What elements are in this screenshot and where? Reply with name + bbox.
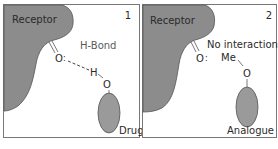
receptor-oxygen-2: O xyxy=(196,53,204,64)
interaction-label-2: No interaction xyxy=(207,39,278,50)
receptor-oxygen-1: O xyxy=(55,53,63,64)
panel-1: Receptor 1 O : H-Bond H O Drug xyxy=(4,5,144,138)
lone-pair-2: : xyxy=(205,54,208,63)
ligand-hydrogen-1: H xyxy=(90,67,98,78)
analogue-body xyxy=(236,87,258,127)
drug-body xyxy=(98,93,120,133)
ligand-label-2: Analogue xyxy=(227,125,274,136)
panel-2: Receptor 2 O : No interaction Me O Analo… xyxy=(143,5,278,138)
ligand-oxygen-2: O xyxy=(243,68,251,79)
ligand-methyl-2: Me xyxy=(221,52,236,63)
ligand-label-1: Drug xyxy=(119,125,144,136)
diagram: Receptor 1 O : H-Bond H O Drug Receptor … xyxy=(0,0,278,149)
panel-number-2: 2 xyxy=(266,10,272,21)
receptor-label-2: Receptor xyxy=(150,15,196,26)
interaction-label-1: H-Bond xyxy=(80,40,116,51)
lone-pair-1: : xyxy=(63,54,66,63)
receptor-label-1: Receptor xyxy=(12,14,58,25)
panel-number-1: 1 xyxy=(125,10,131,21)
ligand-oxygen-1: O xyxy=(103,79,111,90)
